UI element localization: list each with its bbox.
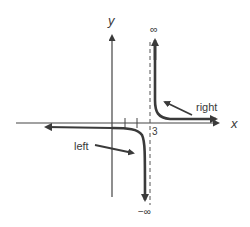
left-branch-tail	[46, 127, 112, 128]
right-label: right	[196, 101, 217, 113]
right-pointer-arrow	[165, 102, 192, 115]
infinity-label: ∞	[150, 23, 158, 35]
left-branch-curve	[112, 128, 145, 200]
left-label: left	[74, 140, 89, 152]
left-pointer-arrow	[95, 145, 133, 153]
asymptote-graph: x y 3 ∞ −∞ right left	[0, 0, 250, 227]
asymptote-x-label: 3	[152, 126, 158, 137]
x-axis-label: x	[230, 116, 238, 131]
negative-infinity-label: −∞	[138, 206, 151, 217]
y-axis-label: y	[107, 13, 116, 28]
